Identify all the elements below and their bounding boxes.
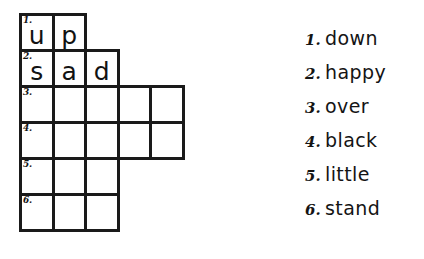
crossword-cell-r3c2[interactable] [52,85,88,124]
crossword-cell-r4c1[interactable]: 4. [19,121,55,160]
word-text: little [325,163,370,185]
word-number: 5. [305,167,325,185]
crossword-row-4: 4. [19,121,182,160]
crossword-grid: 1. u p 2. s a d 3. [19,13,182,232]
word-text: black [325,129,377,151]
word-text: happy [325,61,386,83]
word-list-item-2: 2. happy [305,61,420,95]
crossword-row-3: 3. [19,85,182,124]
word-number: 4. [305,133,325,151]
word-number: 3. [305,99,325,117]
crossword-row-6: 6. [19,193,182,232]
word-text: down [325,27,378,49]
crossword-cell-r4c3[interactable] [84,121,120,160]
clue-number-4: 4. [23,123,32,133]
crossword-cell-r1c2[interactable]: p [52,13,88,52]
crossword-row-1: 1. u p [19,13,182,52]
clue-number-5: 5. [23,159,32,169]
word-list-item-5: 5. little [305,163,420,197]
crossword-cell-r6c2[interactable] [52,193,88,232]
word-list: 1. down 2. happy 3. over 4. black 5. lit… [305,27,420,231]
crossword-cell-r4c2[interactable] [52,121,88,160]
crossword-cell-r4c4[interactable] [117,121,153,160]
crossword-row-2: 2. s a d [19,49,182,88]
clue-number-6: 6. [23,195,32,205]
word-number: 1. [305,31,325,49]
crossword-cell-r3c5[interactable] [149,85,185,124]
crossword-row-5: 5. [19,157,182,196]
word-list-item-6: 6. stand [305,197,420,231]
cell-letter: u [22,22,52,50]
crossword-cell-r5c3[interactable] [84,157,120,196]
crossword-cell-r3c1[interactable]: 3. [19,85,55,124]
crossword-cell-r3c4[interactable] [117,85,153,124]
cell-letter: a [55,58,85,86]
crossword-cell-r2c1[interactable]: 2. s [19,49,55,88]
crossword-cell-r6c3[interactable] [84,193,120,232]
word-text: stand [325,197,380,219]
clue-number-3: 3. [23,87,32,97]
cell-letter: p [55,22,85,50]
crossword-cell-r3c3[interactable] [84,85,120,124]
cell-letter: d [87,58,117,86]
crossword-cell-r5c2[interactable] [52,157,88,196]
crossword-cell-r1c1[interactable]: 1. u [19,13,55,52]
word-number: 6. [305,201,325,219]
crossword-cell-r2c2[interactable]: a [52,49,88,88]
word-list-item-4: 4. black [305,129,420,163]
word-number: 2. [305,65,325,83]
word-list-item-3: 3. over [305,95,420,129]
cell-letter: s [22,58,52,86]
crossword-cell-r2c3[interactable]: d [84,49,120,88]
word-list-item-1: 1. down [305,27,420,61]
crossword-cell-r5c1[interactable]: 5. [19,157,55,196]
crossword-cell-r6c1[interactable]: 6. [19,193,55,232]
crossword-cell-r4c5[interactable] [149,121,185,160]
word-text: over [325,95,369,117]
